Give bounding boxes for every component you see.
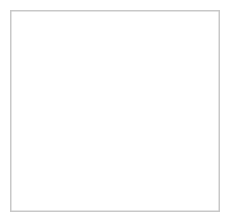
figure-border: [11, 11, 220, 212]
figure-frame: [0, 0, 230, 222]
illustration-canvas: [0, 0, 230, 222]
